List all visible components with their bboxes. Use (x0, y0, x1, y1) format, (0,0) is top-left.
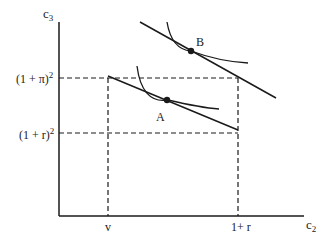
consumption-diagram: c3 c2 (1 + π)2 (1 + r)2 v 1+ r A B (0, 0, 332, 241)
budget-line-b (140, 22, 276, 98)
dashed-guides (59, 78, 238, 216)
point-a-label: A (156, 110, 165, 124)
x-axis-label: c2 (306, 217, 316, 234)
point-b-label: B (196, 35, 204, 49)
y-axis-label: c3 (43, 6, 54, 23)
x-tick-1r: 1+ r (231, 220, 251, 234)
indifference-curve-a (137, 66, 219, 109)
point-b-marker (188, 48, 194, 54)
indifference-curve-b (167, 22, 248, 63)
point-a-marker (164, 97, 170, 103)
y-tick-lower: (1 + r)2 (19, 126, 54, 142)
budget-line-a (108, 76, 238, 130)
x-tick-v: v (105, 220, 111, 234)
y-tick-upper: (1 + π)2 (16, 70, 53, 86)
